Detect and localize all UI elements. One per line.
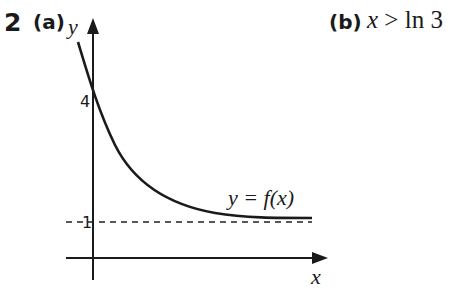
x-axis-label: x [310,264,321,289]
x-axis-arrow-icon [312,252,328,264]
graph: y x 4 1 y = f(x) [0,0,450,293]
asymptote-value-label: 1 [82,213,92,232]
curve-label: y = f(x) [226,185,294,210]
y-axis-arrow-icon [87,18,99,34]
y-intercept-label: 4 [80,92,90,111]
y-axis-label: y [66,14,78,39]
